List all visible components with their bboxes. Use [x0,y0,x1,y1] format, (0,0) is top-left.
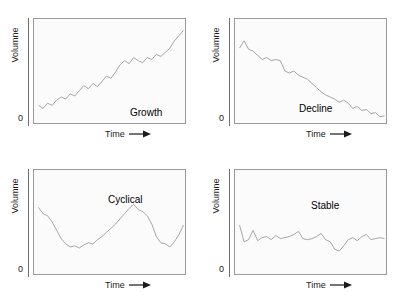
y-axis-origin-label: 0 [18,113,23,124]
y-axis-label: Volumne [10,164,20,228]
y-axis-label: Volumne [10,13,20,77]
plot-area-growth: Growth [33,18,186,124]
y-axis-label: Volumne [211,164,221,228]
x-axis-label: Time [105,129,125,139]
series-line-cyclical [34,170,185,274]
chart-panel-cyclical: 0 Volumne Cyclical Time [0,151,201,302]
chart-panel-growth: 0 Volumne Growth Time [0,0,201,151]
y-axis-origin-label: 0 [219,264,224,275]
plot-area-decline: Decline [234,18,387,124]
y-axis-origin-label: 0 [18,264,23,275]
series-title-cyclical: Cyclical [108,194,142,205]
arrow-right-icon [129,281,151,289]
x-axis-label-group: Time [306,280,352,290]
series-title-stable: Stable [311,200,339,211]
y-axis-origin-label: 0 [219,113,224,124]
x-axis-label-group: Time [105,280,151,290]
x-axis-label: Time [306,129,326,139]
x-axis-label: Time [105,280,125,290]
trend-pattern-figure: 0 Volumne Growth Time 0 Volumne Decline [0,0,403,303]
y-axis-label: Volumne [211,13,221,77]
x-axis-label-group: Time [306,129,352,139]
series-title-growth: Growth [130,107,162,118]
arrow-right-icon [129,130,151,138]
y-axis-line [28,18,29,126]
x-axis-label-group: Time [105,129,151,139]
series-line-growth [34,19,185,123]
arrow-right-icon [330,281,352,289]
y-axis-line [28,169,29,277]
y-axis-line [229,18,230,126]
series-line-stable [235,170,386,274]
y-axis-line [229,169,230,277]
plot-area-stable: Stable [234,169,387,275]
chart-panel-decline: 0 Volumne Decline Time [201,0,402,151]
chart-panel-stable: 0 Volumne Stable Time [201,151,402,302]
plot-area-cyclical: Cyclical [33,169,186,275]
series-title-decline: Decline [299,103,332,114]
arrow-right-icon [330,130,352,138]
x-axis-label: Time [306,280,326,290]
